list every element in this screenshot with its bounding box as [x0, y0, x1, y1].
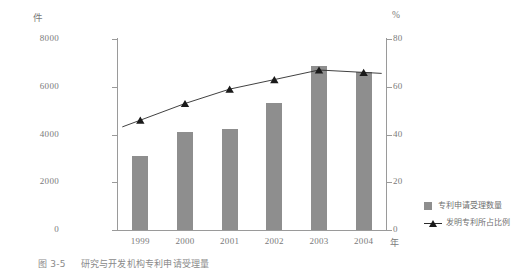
right-tick-label: 60	[393, 81, 403, 91]
chart-figure: 件 % 80006000400020000 806040200 19992000…	[0, 0, 531, 275]
right-axis-unit: %	[392, 10, 400, 20]
bar-2003	[311, 66, 327, 230]
left-tick-mark	[112, 39, 117, 40]
left-axis-unit: 件	[33, 10, 43, 24]
x-tick-label-2004: 2004	[344, 236, 384, 246]
figure-title: 研究与开发机构专利申请受理量	[81, 259, 210, 269]
legend-label-line: 发明专利所占比例	[446, 214, 510, 231]
left-tick-label: 2000	[19, 176, 59, 186]
x-axis-unit: 年	[390, 236, 399, 249]
x-axis-line	[117, 230, 387, 231]
right-tick-mark	[387, 87, 392, 88]
x-tick-label-2001: 2001	[210, 236, 250, 246]
right-tick-mark	[387, 135, 392, 136]
right-tick-label: 20	[393, 176, 403, 186]
legend-label-bar: 专利申请受理数量	[438, 197, 502, 214]
right-tick-label: 40	[393, 129, 403, 139]
bar-series	[118, 39, 386, 230]
bar-1999	[132, 156, 148, 230]
left-tick-label: 6000	[19, 81, 59, 91]
left-tick-label: 8000	[19, 33, 59, 43]
bar-2002	[266, 103, 282, 230]
x-tick-label-2000: 2000	[165, 236, 205, 246]
left-tick-label: 0	[19, 224, 59, 234]
left-tick-mark	[112, 135, 117, 136]
left-tick-mark	[112, 87, 117, 88]
right-tick-label: 80	[393, 33, 403, 43]
legend-item-bar: 专利申请受理数量	[424, 197, 510, 214]
legend-item-line: 发明专利所占比例	[424, 214, 510, 231]
bar-2004	[356, 72, 372, 230]
right-tick-mark	[387, 182, 392, 183]
bar-2000	[177, 132, 193, 230]
chart-legend: 专利申请受理数量 发明专利所占比例	[424, 197, 510, 231]
x-tick-label-2002: 2002	[254, 236, 294, 246]
legend-triangle-line-icon	[424, 219, 442, 227]
bar-2001	[222, 129, 238, 230]
left-tick-label: 4000	[19, 129, 59, 139]
right-tick-label: 0	[393, 224, 398, 234]
left-tick-mark	[112, 182, 117, 183]
right-tick-mark	[387, 230, 392, 231]
figure-number: 图 3-5	[38, 259, 66, 269]
right-tick-mark	[387, 39, 392, 40]
figure-caption: 图 3-5 研究与开发机构专利申请受理量	[38, 257, 209, 270]
left-tick-mark	[112, 230, 117, 231]
x-tick-label-1999: 1999	[120, 236, 160, 246]
x-tick-label-2003: 2003	[299, 236, 339, 246]
legend-square-icon	[424, 202, 432, 210]
